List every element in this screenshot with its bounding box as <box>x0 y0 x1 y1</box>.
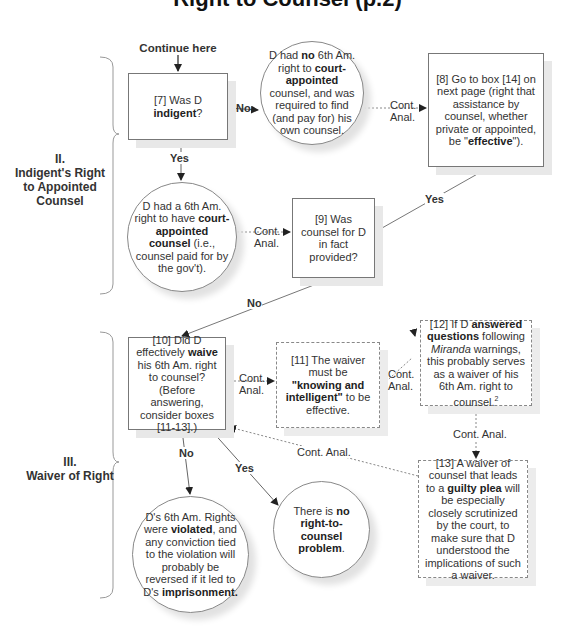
edge-label-cont-anal: Cont.Anal. <box>239 372 265 396</box>
edge-label-yes: Yes <box>235 462 254 474</box>
box-8-go-to-box-14: [8] Go to box [14] on next page (right t… <box>428 53 544 167</box>
section-title-line: Counsel <box>10 194 110 208</box>
text: his 6th Am. right to counsel? (Before an… <box>138 359 217 434</box>
circle-rights-violated: D's 6th Am. Rights were violated, and an… <box>132 496 249 613</box>
box-11-knowing-intelligent: [11] The waiver must be "knowing and int… <box>276 342 380 428</box>
box-7-indigent: [7] Was D indigent? <box>128 73 228 140</box>
text: Cont. <box>388 368 414 380</box>
edge-label-no: No <box>236 102 251 114</box>
text-bold: no <box>301 49 314 61</box>
text: . <box>342 542 345 554</box>
section-numeral: III. <box>25 455 115 469</box>
text: [12] If D <box>430 318 472 330</box>
footnote-marker: 2 <box>495 395 499 402</box>
text-bold: imprisonment. <box>162 586 238 598</box>
box-9-counsel-provided: [9] Was counsel for D in fact provided? <box>292 198 375 278</box>
edge-label-cont-anal: Cont.Anal. <box>388 368 414 392</box>
text: [9] Was counsel for D in fact provided? <box>301 213 366 263</box>
text: Anal. <box>388 380 413 392</box>
edge-label-cont-anal: Cont. Anal. <box>453 428 507 440</box>
section-title-line: Indigent's Right <box>10 166 110 180</box>
text-bold: indigent <box>154 107 197 119</box>
circle-right-to-appointed-counsel: D had a 6th Am. right to have court-appo… <box>127 182 237 292</box>
text: will be especially closely scrutinized b… <box>425 482 521 582</box>
box-12-miranda: [12] If D answered questions following M… <box>420 320 532 406</box>
text: following <box>479 330 525 342</box>
text: [7] Was D <box>154 94 202 106</box>
edge-label-no: No <box>247 297 262 309</box>
circle-no-problem: There is no right-to-counsel problem. <box>273 481 370 578</box>
section-title-line: to Appointed <box>10 180 110 194</box>
edge-label-yes: Yes <box>170 152 189 164</box>
edge-label-cont-anal: Cont.Anal. <box>390 99 416 123</box>
text-bold: waive <box>188 346 218 358</box>
section-numeral: II. <box>10 152 110 166</box>
text-italic: Miranda <box>431 343 471 355</box>
text: Anal. <box>239 384 264 396</box>
text: Cont. <box>254 225 280 237</box>
section-indigent-right: II. Indigent's Right to Appointed Counse… <box>10 152 110 208</box>
edge-label-no: No <box>179 447 194 459</box>
section-title-line: Waiver of Right <box>25 469 115 483</box>
box-13-guilty-plea: [13] A waiver of counsel that leads to a… <box>418 460 528 578</box>
text: Anal. <box>390 111 415 123</box>
text: D had <box>269 49 301 61</box>
section-waiver-of-right: III. Waiver of Right <box>25 455 115 483</box>
text-bold: violated <box>171 523 213 535</box>
edge-label-yes: Yes <box>425 193 444 205</box>
text: There is <box>293 505 336 517</box>
edge-label-cont-anal: Cont.Anal. <box>254 225 280 249</box>
text: ? <box>196 107 202 119</box>
text: Cont. <box>390 99 416 111</box>
start-label: Continue here <box>128 42 228 55</box>
text: [11] The waiver must be <box>291 354 365 379</box>
text: "). <box>513 135 524 147</box>
box-10-waiver: [10] Did D effectively waive his 6th Am.… <box>128 337 226 430</box>
edge-label-cont-anal: Cont. Anal. <box>297 446 351 458</box>
text: Anal. <box>254 237 279 249</box>
text-bold: effective <box>468 135 513 147</box>
circle-no-right-to-appointed-counsel: D had no 6th Am. right to court-appointe… <box>260 41 364 145</box>
text-bold: guilty plea <box>447 482 501 494</box>
text: counsel, and was required to find (and p… <box>270 87 355 137</box>
start-label-text: Continue here <box>139 42 216 54</box>
text: Cont. <box>239 372 265 384</box>
